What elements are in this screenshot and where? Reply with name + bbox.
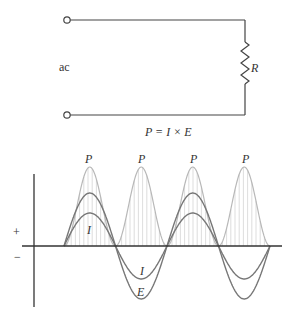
resistor-icon — [241, 42, 249, 84]
bottom-terminal-icon — [64, 112, 70, 118]
current-label-negative: I — [139, 264, 145, 278]
power-label-3: P — [189, 152, 198, 166]
plus-label: + — [13, 225, 20, 239]
current-label-positive: I — [86, 223, 92, 237]
power-label-2: P — [137, 152, 146, 166]
minus-label: − — [14, 250, 21, 264]
power-formula: P = I × E — [144, 125, 192, 139]
ac-power-diagram: ac R P = I × E + − P P P P I I E — [0, 0, 301, 315]
waveform-graph: + − P P P P I I E — [13, 152, 282, 307]
top-terminal-icon — [64, 17, 70, 23]
power-label-1: P — [84, 152, 93, 166]
source-label: ac — [59, 60, 70, 74]
voltage-label-negative: E — [136, 285, 145, 299]
resistor-label: R — [250, 61, 259, 75]
circuit: ac R P = I × E — [59, 17, 259, 139]
power-label-4: P — [241, 152, 250, 166]
